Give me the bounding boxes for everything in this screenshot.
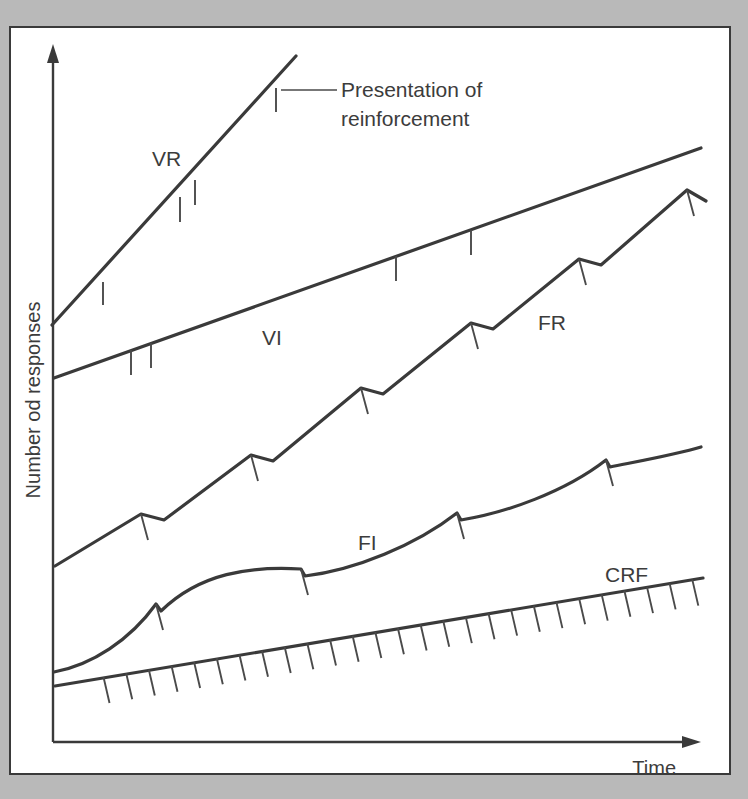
- crf-reinforcement-mark: [489, 613, 495, 639]
- crf-reinforcement-mark: [398, 628, 404, 654]
- crf-reinforcement-mark: [307, 643, 313, 669]
- series-fr: FR: [55, 190, 706, 566]
- crf-reinforcement-mark: [353, 636, 359, 662]
- annotation-line-1: Presentation of: [341, 78, 482, 101]
- x-axis-arrowhead: [682, 736, 701, 748]
- crf-reinforcement-mark: [602, 595, 608, 621]
- crf-reinforcement-mark: [534, 606, 540, 632]
- crf-reinforcement-mark: [285, 647, 291, 673]
- crf-label: CRF: [605, 563, 648, 586]
- axes-group: [47, 44, 701, 748]
- y-axis-label: Number od responses: [22, 302, 44, 499]
- crf-reinforcement-mark: [421, 625, 427, 651]
- y-axis-arrowhead: [47, 44, 59, 63]
- fr-reinforcement-mark: [141, 514, 148, 540]
- crf-reinforcement-mark: [579, 598, 585, 624]
- crf-reinforcement-mark: [443, 621, 449, 647]
- vr-label: VR: [152, 147, 181, 170]
- crf-reinforcement-mark: [104, 677, 110, 703]
- reinforcement-annotation: Presentation of reinforcement: [281, 78, 482, 130]
- crf-reinforcement-mark: [624, 591, 630, 617]
- crf-reinforcement-mark: [126, 673, 132, 699]
- fr-label: FR: [538, 311, 566, 334]
- crf-reinforcement-mark: [262, 651, 268, 677]
- crf-reinforcement-mark: [330, 640, 336, 666]
- fr-curve: [55, 190, 706, 566]
- vr-curve: [52, 56, 296, 325]
- annotation-line-2: reinforcement: [341, 107, 470, 130]
- fr-reinforcement-mark: [361, 388, 368, 414]
- crf-reinforcement-mark: [239, 655, 245, 681]
- crf-reinforcement-mark: [466, 617, 472, 643]
- figure-root: Number od responses Time VR Presentation…: [0, 0, 748, 799]
- crf-reinforcement-mark: [692, 580, 698, 606]
- series-crf: CRF: [55, 563, 703, 703]
- vi-label: VI: [262, 326, 282, 349]
- crf-reinforcement-mark: [647, 587, 653, 613]
- crf-reinforcement-mark: [149, 670, 155, 696]
- crf-reinforcement-marks: [104, 580, 699, 703]
- crf-reinforcement-mark: [556, 602, 562, 628]
- crf-reinforcement-mark: [511, 610, 517, 636]
- x-axis-label: Time: [632, 757, 676, 779]
- crf-reinforcement-mark: [670, 583, 676, 609]
- fi-label: FI: [358, 531, 377, 554]
- crf-reinforcement-mark: [375, 632, 381, 658]
- crf-curve: [55, 578, 703, 686]
- fr-reinforcement-mark: [471, 323, 478, 349]
- crf-reinforcement-mark: [217, 658, 223, 684]
- fr-reinforcement-mark: [251, 455, 258, 481]
- crf-reinforcement-mark: [172, 666, 178, 692]
- crf-reinforcement-mark: [194, 662, 200, 688]
- cumulative-record-chart: Number od responses Time VR Presentation…: [0, 0, 748, 799]
- fr-reinforcement-mark: [579, 259, 586, 285]
- series-vr: VR: [52, 56, 296, 325]
